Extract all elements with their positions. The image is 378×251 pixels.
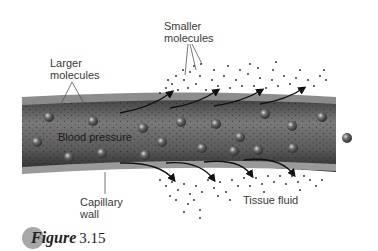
- capillary-wall-label: Capillary wall: [80, 196, 123, 220]
- smaller-molecules-tissue: [159, 175, 323, 219]
- smaller-molecules-label: Smaller molecules: [164, 20, 214, 44]
- tissue-fluid-label: Tissue fluid: [243, 194, 298, 206]
- figure-number: 3.15: [79, 230, 105, 246]
- figure-word: Figure: [31, 229, 76, 246]
- larger-molecules-label: Larger molecules: [50, 57, 100, 81]
- blood-pressure-label: Blood pressure: [58, 131, 132, 143]
- figure-caption-text: Figure3.15: [31, 229, 106, 247]
